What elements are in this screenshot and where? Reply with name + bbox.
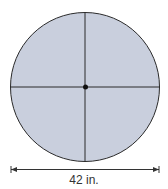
dimension-line (11, 166, 159, 173)
diameter-label: 42 in. (0, 173, 168, 187)
circle-diagram (0, 0, 168, 189)
center-point (83, 85, 88, 90)
